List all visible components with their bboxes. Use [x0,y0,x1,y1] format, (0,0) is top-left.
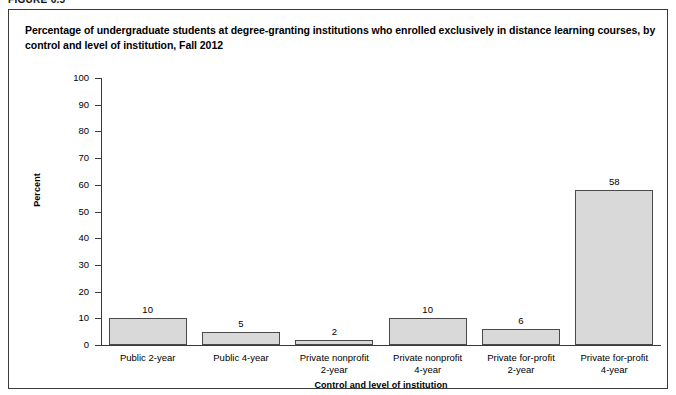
y-axis-tick [95,265,101,266]
y-axis-tick-label: 80 [53,125,89,136]
y-axis-tick [95,292,101,293]
bar-value-label: 10 [388,304,468,315]
y-axis-tick [95,131,101,132]
y-axis-line [101,78,102,346]
bar [482,329,560,345]
bar-value-label: 6 [481,315,561,326]
y-axis-tick [95,212,101,213]
x-axis-title: Control and level of institution [101,380,661,390]
y-axis-tick [95,318,101,319]
y-axis-tick [95,238,101,239]
bar [389,318,467,345]
y-axis-tick [95,185,101,186]
x-axis-line [101,345,661,346]
bar-chart: Percent 0102030405060708090100 105210658… [9,10,669,390]
y-axis-tick-label: 90 [53,99,89,110]
bar-value-label: 2 [294,326,374,337]
bar [295,340,373,345]
y-axis-tick-label: 20 [53,286,89,297]
y-axis-title: Percent [32,160,42,220]
bar [109,318,187,345]
figure-frame: Percentage of undergraduate students at … [8,9,668,389]
y-axis-tick [95,78,101,79]
figure-number: FIGURE 6.5 [8,0,65,6]
y-axis-tick-label: 60 [53,179,89,190]
x-axis-category-label: Private for-profit4-year [559,352,669,376]
y-axis-tick-label: 40 [53,232,89,243]
y-axis-tick-label: 50 [53,206,89,217]
y-axis-tick-label: 0 [53,339,89,350]
y-axis-tick-label: 100 [53,72,89,83]
bar-value-label: 58 [574,176,654,187]
y-axis-tick [95,345,101,346]
y-axis-tick [95,105,101,106]
bar [575,190,653,345]
bar-value-label: 5 [201,318,281,329]
bar-value-label: 10 [108,304,188,315]
y-axis-tick-label: 10 [53,312,89,323]
bar [202,332,280,345]
y-axis-tick-label: 30 [53,259,89,270]
y-axis-tick [95,158,101,159]
y-axis-tick-label: 70 [53,152,89,163]
